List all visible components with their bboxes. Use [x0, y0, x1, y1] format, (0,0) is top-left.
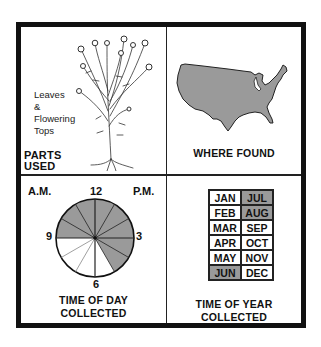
month-cell: JUN	[209, 265, 241, 280]
parts-line-tops: Tops	[34, 125, 75, 137]
month-cell: JAN	[209, 190, 241, 205]
month-grid: JAN JUL FEB AUG MAR SEP APR OCT MAY NOV …	[208, 189, 274, 281]
month-cell: MAY	[209, 250, 241, 265]
month-cell: JUL	[241, 190, 273, 205]
flowering-plant-icon	[61, 31, 161, 171]
time-of-year-title-line2: COLLECTED	[167, 311, 301, 324]
time-of-day-title: TIME OF DAY COLLECTED	[21, 294, 166, 319]
month-cell: APR	[209, 235, 241, 250]
where-found-title: WHERE FOUND	[167, 147, 301, 160]
month-cell: OCT	[241, 235, 273, 250]
month-cell: SEP	[241, 220, 273, 235]
time-of-year-title: TIME OF YEAR COLLECTED	[167, 298, 301, 323]
parts-used-title-line2: USED	[24, 161, 61, 172]
us-map-icon	[173, 57, 297, 137]
clock-label-12: 12	[90, 185, 102, 197]
time-of-day-title-line1: TIME OF DAY	[21, 294, 166, 307]
clock-label-9: 9	[46, 230, 52, 242]
pm-label: P.M.	[133, 185, 154, 197]
parts-line-ampersand: &	[34, 101, 75, 113]
time-of-year-title-line1: TIME OF YEAR	[167, 298, 301, 311]
herb-info-chart: Leaves & Flowering Tops PARTS USED WHERE…	[16, 22, 306, 328]
parts-line-leaves: Leaves	[34, 89, 75, 101]
horizontal-divider	[21, 174, 301, 176]
time-of-day-title-line2: COLLECTED	[21, 307, 166, 320]
month-cell: FEB	[209, 205, 241, 220]
clock-label-6: 6	[93, 278, 99, 290]
clock-face-icon	[54, 197, 136, 279]
parts-used-description: Leaves & Flowering Tops	[34, 89, 75, 137]
month-cell: NOV	[241, 250, 273, 265]
am-label: A.M.	[28, 185, 51, 197]
month-cell: MAR	[209, 220, 241, 235]
clock-label-3: 3	[136, 230, 142, 242]
parts-line-flowering: Flowering	[34, 113, 75, 125]
month-cell: DEC	[241, 265, 273, 280]
parts-used-title: PARTS USED	[24, 150, 61, 172]
month-cell: AUG	[241, 205, 273, 220]
